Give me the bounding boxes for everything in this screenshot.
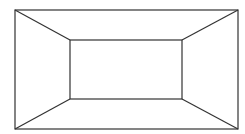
connector-top-right — [182, 10, 238, 40]
corner-connectors — [15, 10, 238, 129]
connector-bottom-right — [182, 99, 238, 129]
perspective-room-diagram — [0, 0, 245, 134]
connector-bottom-left — [15, 99, 70, 129]
connector-top-left — [15, 10, 70, 40]
inner-rectangle — [70, 40, 182, 99]
